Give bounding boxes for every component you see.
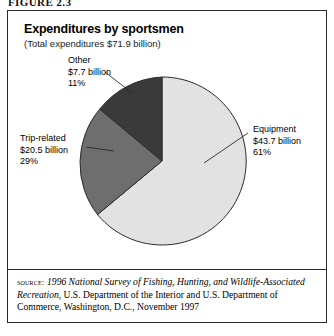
slice-label-trip-related-value: $20.5 billion (20, 145, 68, 157)
source-label: source: (17, 277, 45, 287)
source-note: source: 1996 National Survey of Fishing,… (17, 276, 319, 314)
slice-label-equipment-percent: 61% (253, 147, 301, 159)
slice-label-trip-related: Trip-related $20.5 billion 29% (20, 133, 68, 168)
figure-box: Expenditures by sportsmen (Total expendi… (7, 10, 327, 323)
slice-label-other: Other $7.7 billion 11% (68, 55, 111, 90)
slice-label-other-name: Other (68, 55, 111, 67)
slice-label-trip-related-percent: 29% (20, 156, 68, 168)
slice-label-equipment: Equipment $43.7 billion 61% (253, 124, 301, 159)
slice-label-trip-related-name: Trip-related (20, 133, 68, 145)
pie-chart: Other $7.7 billion 11% Trip-related $20.… (8, 11, 326, 259)
slice-label-other-percent: 11% (68, 78, 111, 90)
slice-label-equipment-name: Equipment (253, 124, 301, 136)
figure-number: FIGURE 2.3 (8, 0, 71, 8)
source-divider (8, 269, 326, 270)
slice-label-other-value: $7.7 billion (68, 67, 111, 79)
slice-label-equipment-value: $43.7 billion (253, 136, 301, 148)
